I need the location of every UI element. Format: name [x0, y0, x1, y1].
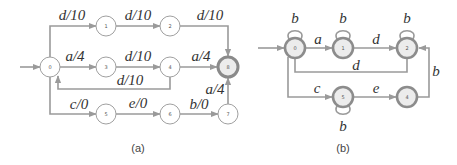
svg-text:3: 3: [104, 64, 107, 70]
svg-text:4: 4: [405, 94, 408, 100]
state-node-6: 6: [160, 104, 180, 124]
edge-label-b-1-2: d: [372, 31, 380, 47]
edge-label-5-6: e/0: [129, 95, 148, 111]
state-node-0: 0: [40, 57, 60, 77]
edge-label-0-1: d/10: [59, 7, 86, 23]
caption-b: (b): [336, 142, 349, 154]
state-node-5: 5: [96, 104, 116, 124]
edge-label-4-0: d/10: [117, 72, 144, 88]
edge-label-0-3: a/4: [65, 48, 85, 64]
state-node-1: 1: [96, 16, 116, 36]
panel-b: b b b b a d d c e b 0 1: [258, 10, 440, 154]
state-node-3: 3: [96, 57, 116, 77]
loop-label-5: b: [339, 118, 347, 134]
state-node-b-5: 5: [333, 87, 353, 107]
svg-text:0: 0: [48, 64, 51, 70]
edge-label-b-2-0: d: [352, 57, 360, 73]
edge-label-b-0-1: a: [314, 31, 322, 47]
panel-a: d/10 d/10 d/10 a/4 d/10 a/4 d/10 c/0 e/0…: [20, 7, 238, 154]
state-node-b-4: 4: [397, 87, 417, 107]
edge-4-0: [58, 76, 170, 89]
svg-text:6: 6: [168, 111, 171, 117]
svg-text:0: 0: [293, 45, 296, 51]
svg-text:8: 8: [226, 64, 229, 70]
loop-label-1: b: [339, 10, 347, 26]
caption-a: (a): [131, 142, 144, 154]
edge-label-3-4: d/10: [125, 48, 152, 64]
svg-text:1: 1: [341, 45, 344, 51]
state-node-b-2: 2: [397, 38, 417, 58]
state-node-b-0: 0: [285, 38, 305, 58]
edge-b-4-2: [418, 48, 429, 97]
edge-label-6-7: b/0: [189, 96, 209, 112]
svg-text:2: 2: [168, 23, 171, 29]
edge-label-b-0-5: c: [314, 80, 321, 96]
state-node-7: 7: [218, 104, 238, 124]
svg-text:4: 4: [168, 64, 171, 70]
state-node-b-1: 1: [333, 38, 353, 58]
loop-label-0: b: [291, 10, 299, 26]
diagram-canvas: d/10 d/10 d/10 a/4 d/10 a/4 d/10 c/0 e/0…: [0, 0, 457, 165]
edge-b-2-0: [295, 59, 407, 72]
svg-text:5: 5: [104, 111, 107, 117]
edge-label-1-2: d/10: [125, 7, 152, 23]
svg-text:2: 2: [405, 45, 408, 51]
loop-label-2: b: [403, 10, 411, 26]
state-node-2: 2: [160, 16, 180, 36]
state-node-4: 4: [160, 57, 180, 77]
edge-label-4-8: a/4: [191, 48, 211, 64]
svg-text:7: 7: [226, 111, 229, 117]
svg-text:5: 5: [341, 94, 344, 100]
edge-label-b-4-2: b: [432, 63, 440, 79]
state-node-8-final: 8: [218, 57, 238, 77]
edge-label-0-5: c/0: [70, 96, 89, 112]
edge-label-7-8: a/4: [205, 81, 225, 97]
edge-label-2-8: d/10: [197, 7, 224, 23]
edge-label-b-5-4: e: [373, 80, 380, 96]
svg-text:1: 1: [104, 23, 107, 29]
